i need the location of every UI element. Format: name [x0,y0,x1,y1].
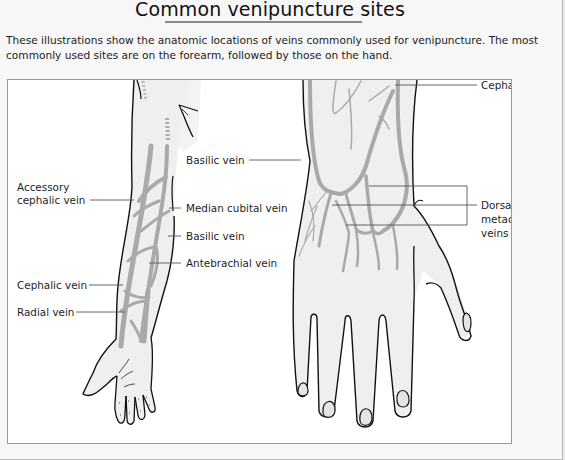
label-median-cubital-vein: Median cubital vein [186,201,288,215]
label-dorsal-metacarpal-line2: metacarpal [481,212,512,226]
forearm-illustration [83,80,201,424]
intro-paragraph: These illustrations show the anatomic lo… [6,33,546,63]
label-dorsal-metacarpal-line3: veins [481,226,508,240]
page-title: Common venipuncture sites [0,0,540,20]
hand-illustration [293,80,471,427]
label-cephalic-vein-arm: Cephalic vein [17,278,87,292]
page: Common venipuncture sites These illustra… [0,0,563,460]
label-antebrachial-vein: Antebrachial vein [186,256,277,270]
label-radial-vein: Radial vein [17,305,74,319]
figure-panel: Accessory cephalic vein Basilic vein Med… [7,79,512,444]
label-accessory-cephalic-line1: Accessory [17,180,69,194]
label-accessory-cephalic-line2: cephalic vein [17,193,85,207]
label-dorsal-metacarpal-line1: Dorsal [481,198,512,212]
title-underline [165,21,362,23]
label-basilic-vein-lower: Basilic vein [186,229,245,243]
label-basilic-vein-upper: Basilic vein [186,153,245,167]
label-cephalic-vein-hand: Cephalic vein [481,79,512,92]
